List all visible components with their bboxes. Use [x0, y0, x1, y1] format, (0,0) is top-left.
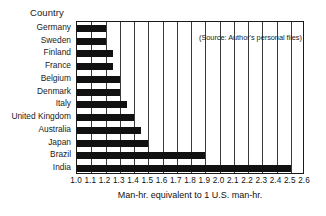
x-axis-tick-label: 2.1	[227, 176, 238, 186]
bar	[77, 50, 113, 57]
y-axis-label: Belgium	[41, 74, 71, 83]
x-axis-tick-label: 1.5	[142, 176, 153, 186]
bar-row	[77, 114, 305, 121]
x-axis-tick-label: 2.3	[256, 176, 267, 186]
bar	[77, 152, 205, 159]
y-axis-label: Australia	[38, 125, 71, 134]
y-axis-label: Sweden	[41, 36, 71, 45]
y-axis-label: Italy	[56, 99, 71, 108]
x-axis-tick-label: 1.4	[127, 176, 138, 186]
x-axis-tick-label: 1.8	[184, 176, 195, 186]
bar	[77, 25, 106, 32]
horizontal-bar-chart: Country GermanySwedenFinlandFranceBelgiu…	[0, 0, 326, 216]
x-axis-tick-label: 1.2	[99, 176, 110, 186]
bar	[77, 38, 106, 45]
y-axis-labels: GermanySwedenFinlandFranceBelgiumDenmark…	[0, 21, 74, 174]
x-axis-tick-label: 2.2	[241, 176, 252, 186]
bar-row	[77, 127, 305, 134]
bar-row	[77, 152, 305, 159]
x-axis-tick-label: 1.0	[70, 176, 81, 186]
y-axis-label: Denmark	[37, 87, 71, 96]
x-axis-tick-label: 1.6	[156, 176, 167, 186]
bar-row	[77, 89, 305, 96]
y-axis-label: Germany	[37, 23, 71, 32]
bar-row	[77, 25, 305, 32]
y-axis-label: Brazil	[50, 150, 71, 159]
y-axis-label: France	[45, 61, 71, 70]
bar	[77, 114, 134, 121]
plot-area: (Source: Author's personal files)	[76, 21, 304, 174]
bar	[77, 165, 291, 172]
bar-row	[77, 101, 305, 108]
source-annotation: (Source: Author's personal files)	[199, 33, 302, 42]
bar-row	[77, 140, 305, 147]
x-axis-tick-label: 2.5	[284, 176, 295, 186]
x-axis-tick-label: 1.9	[199, 176, 210, 186]
bar-row	[77, 76, 305, 83]
bar	[77, 101, 127, 108]
bar	[77, 127, 141, 134]
bar	[77, 89, 120, 96]
x-axis-tick-label: 1.1	[85, 176, 96, 186]
x-axis-tick-labels: 1.01.11.21.31.41.51.61.71.81.92.02.12.22…	[76, 176, 304, 188]
x-axis-title: Man-hr. equivalent to 1 U.S. man-hr.	[76, 190, 304, 200]
bar-row	[77, 63, 305, 70]
y-axis-caption: Country	[30, 7, 64, 18]
y-axis-label: United Kingdom	[11, 112, 71, 121]
bar	[77, 76, 120, 83]
y-axis-label: India	[53, 163, 71, 172]
x-axis-tick-label: 1.7	[170, 176, 181, 186]
x-axis-tick-label: 1.3	[113, 176, 124, 186]
bar-row	[77, 50, 305, 57]
bar	[77, 63, 113, 70]
y-axis-label: Japan	[48, 138, 71, 147]
x-axis-tick-label: 2.0	[213, 176, 224, 186]
x-axis-tick-label: 2.4	[270, 176, 281, 186]
x-axis-tick-label: 2.6	[298, 176, 309, 186]
bars-container	[77, 22, 303, 173]
bar	[77, 140, 148, 147]
y-axis-label: Finland	[44, 48, 71, 57]
bar-row	[77, 165, 305, 172]
